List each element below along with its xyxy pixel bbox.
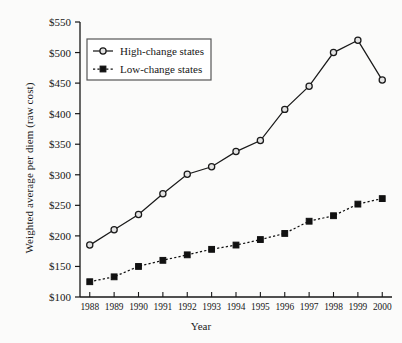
legend-marker <box>100 48 106 54</box>
data-point-marker <box>282 231 288 237</box>
y-tick-label: $550 <box>49 16 72 28</box>
y-tick-label: $400 <box>49 108 72 120</box>
data-point-marker <box>355 201 361 207</box>
y-axis-title: Weighted average per diem (raw cost) <box>23 53 35 283</box>
data-point-marker <box>87 242 93 248</box>
x-tick-label: 1990 <box>129 302 148 312</box>
data-point-marker <box>330 49 336 55</box>
x-tick-label: 1994 <box>227 302 246 312</box>
data-series <box>87 196 385 285</box>
line-chart-plot: $100$150$200$250$300$350$400$450$500$550… <box>0 0 402 343</box>
data-point-marker <box>306 218 312 224</box>
data-point-marker <box>184 252 190 258</box>
data-point-marker <box>355 37 361 43</box>
data-point-marker <box>282 106 288 112</box>
y-tick-label: $500 <box>49 47 72 59</box>
chart-figure: Weighted average per diem (raw cost) Yea… <box>0 0 402 343</box>
x-tick-label: 1991 <box>154 302 173 312</box>
x-tick-label: 1995 <box>251 302 270 312</box>
data-point-marker <box>233 242 239 248</box>
data-point-marker <box>87 279 93 285</box>
data-point-marker <box>306 83 312 89</box>
chart-legend: High-change statesLow-change states <box>87 39 211 80</box>
data-point-marker <box>160 257 166 263</box>
legend-label: Low-change states <box>120 63 202 75</box>
x-tick-label: 1997 <box>300 302 319 312</box>
x-tick-label: 1989 <box>105 302 124 312</box>
data-point-marker <box>379 196 385 202</box>
y-tick-label: $150 <box>49 260 72 272</box>
x-tick-label: 1998 <box>324 302 343 312</box>
x-tick-label: 1993 <box>202 302 221 312</box>
y-tick-label: $100 <box>49 291 72 303</box>
data-point-marker <box>160 191 166 197</box>
y-tick-label: $350 <box>49 138 72 150</box>
data-point-marker <box>257 237 263 243</box>
data-point-marker <box>135 211 141 217</box>
data-point-marker <box>111 274 117 280</box>
data-point-marker <box>257 137 263 143</box>
y-axis-ticks: $100$150$200$250$300$350$400$450$500$550 <box>49 16 80 303</box>
data-point-marker <box>136 264 142 270</box>
x-axis-title: Year <box>0 320 402 332</box>
data-point-marker <box>331 213 337 219</box>
data-point-marker <box>209 246 215 252</box>
x-tick-label: 1988 <box>80 302 99 312</box>
y-tick-label: $450 <box>49 77 72 89</box>
data-point-marker <box>184 171 190 177</box>
y-tick-label: $200 <box>49 230 72 242</box>
legend-label: High-change states <box>120 45 204 57</box>
x-tick-label: 2000 <box>373 302 392 312</box>
data-point-marker <box>379 77 385 83</box>
x-tick-label: 1992 <box>178 302 197 312</box>
x-tick-label: 1996 <box>275 302 294 312</box>
series-line <box>90 199 382 282</box>
legend-marker <box>100 66 106 72</box>
y-tick-label: $300 <box>49 169 72 181</box>
data-point-marker <box>111 227 117 233</box>
x-tick-label: 1999 <box>349 302 368 312</box>
data-point-marker <box>233 148 239 154</box>
y-tick-label: $250 <box>49 199 72 211</box>
data-point-marker <box>209 164 215 170</box>
x-axis-ticks: 1988198919901991199219931994199519961997… <box>80 292 392 312</box>
